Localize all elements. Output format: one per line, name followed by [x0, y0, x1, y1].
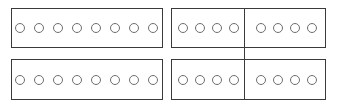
circle-token: [129, 23, 139, 33]
circle-token: [212, 23, 222, 33]
circle-token: [129, 75, 139, 85]
circle-token: [290, 23, 300, 33]
circle-token: [15, 23, 25, 33]
circle-token: [229, 23, 239, 33]
circle-group: [178, 60, 239, 99]
panel-top-right: [171, 8, 326, 48]
circle-token: [307, 75, 317, 85]
circle-token: [212, 75, 222, 85]
circle-token: [273, 75, 283, 85]
circle-token: [91, 23, 101, 33]
vertical-divider-line: [244, 8, 245, 100]
circle-group: [256, 60, 317, 99]
circle-row: [172, 9, 325, 47]
circle-token: [273, 23, 283, 33]
circle-token: [34, 75, 44, 85]
circle-token: [53, 23, 63, 33]
circle-token: [229, 75, 239, 85]
circle-token: [110, 23, 120, 33]
circle-token: [195, 23, 205, 33]
circle-token: [91, 75, 101, 85]
circle-token: [256, 75, 266, 85]
circle-token: [148, 75, 158, 85]
circle-token: [72, 23, 82, 33]
panel-top-left: [11, 8, 163, 48]
circle-token: [15, 75, 25, 85]
circle-token: [178, 75, 188, 85]
circle-row: [12, 60, 162, 99]
panel-bottom-right: [171, 59, 326, 100]
circles-diagram: [0, 0, 338, 111]
circle-token: [290, 75, 300, 85]
circle-token: [53, 75, 63, 85]
circle-token: [195, 75, 205, 85]
circle-row: [172, 60, 325, 99]
circle-token: [307, 23, 317, 33]
circle-token: [34, 23, 44, 33]
circle-group: [256, 9, 317, 47]
circle-group: [15, 60, 158, 99]
circle-token: [72, 75, 82, 85]
panel-bottom-left: [11, 59, 163, 100]
circle-row: [12, 9, 162, 47]
circle-token: [256, 23, 266, 33]
circle-token: [178, 23, 188, 33]
circle-group: [15, 9, 158, 47]
circle-token: [110, 75, 120, 85]
circle-token: [148, 23, 158, 33]
circle-group: [178, 9, 239, 47]
